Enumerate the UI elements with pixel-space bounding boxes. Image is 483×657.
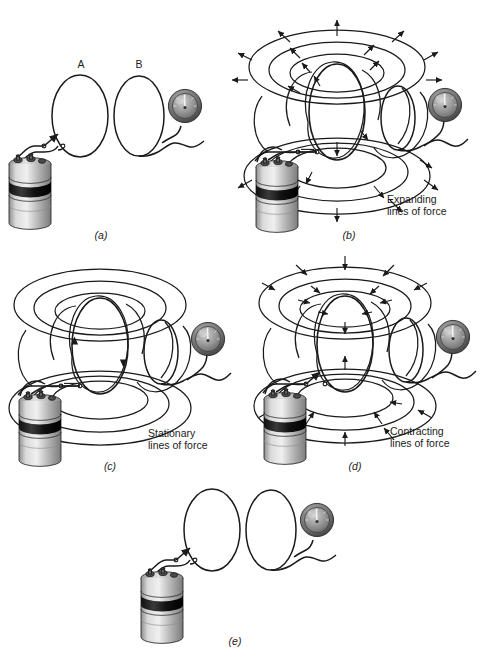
coil-a-label: A (77, 58, 84, 70)
galvanometer-d[interactable] (436, 320, 469, 353)
galvanometer-b[interactable] (428, 88, 461, 121)
battery-b (256, 157, 298, 233)
panel-d-label: (d) (349, 460, 362, 472)
panel-b-caption-line1: Expanding (387, 193, 437, 205)
panel-c-label: (c) (104, 460, 116, 472)
induction-figure: A B (a) (0, 0, 483, 657)
battery-e (141, 568, 183, 644)
figure-background (0, 0, 483, 657)
panel-e-label: (e) (229, 635, 242, 647)
panel-b-caption-line2: lines of force (387, 205, 447, 217)
battery-c (19, 391, 61, 467)
panel-b-label: (b) (343, 229, 356, 241)
battery-a (9, 154, 51, 230)
panel-a-label: (a) (95, 229, 108, 241)
panel-d-caption-line2: lines of force (390, 437, 450, 449)
galvanometer-c[interactable] (191, 322, 224, 355)
coil-b-label: B (135, 58, 142, 70)
battery-d (264, 389, 306, 465)
galvanometer-a[interactable] (168, 89, 201, 122)
panel-c-caption-line1: Stationary (148, 427, 196, 439)
panel-c-caption-line2: lines of force (148, 439, 208, 451)
galvanometer-e[interactable] (300, 503, 333, 536)
panel-d-caption-line1: Contracting (390, 425, 444, 437)
